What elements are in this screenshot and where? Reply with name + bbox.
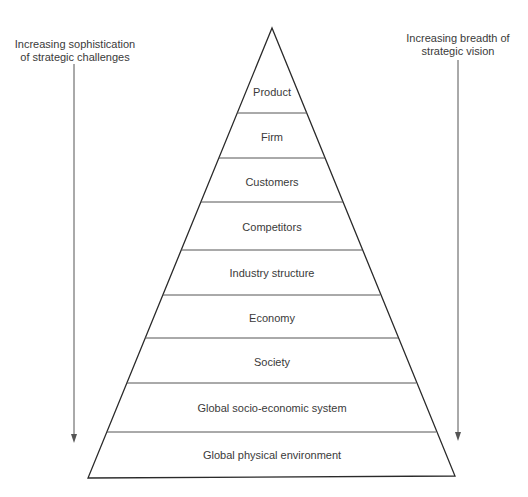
tier-label-firm: Firm	[261, 131, 283, 143]
tier-label-society: Society	[254, 356, 290, 368]
tier-label-global-physical-environment: Global physical environment	[203, 449, 341, 461]
tier-label-industry-structure: Industry structure	[230, 267, 315, 279]
left-arrow-head	[71, 434, 77, 443]
tier-label-competitors: Competitors	[242, 221, 301, 233]
tier-label-economy: Economy	[249, 312, 295, 324]
tier-label-product: Product	[253, 86, 291, 98]
left-annotation-line1: Increasing sophistication	[10, 38, 140, 51]
pyramid-diagram	[0, 0, 528, 497]
right-annotation-line2: strategic vision	[398, 45, 518, 58]
tier-label-global-socio-economic-system: Global socio-economic system	[197, 402, 346, 414]
right-arrow-head	[455, 432, 461, 441]
right-annotation: Increasing breadth of strategic vision	[398, 32, 518, 58]
tier-label-customers: Customers	[245, 176, 298, 188]
left-annotation-line2: of strategic challenges	[10, 51, 140, 64]
left-annotation: Increasing sophistication of strategic c…	[10, 38, 140, 64]
right-annotation-line1: Increasing breadth of	[398, 32, 518, 45]
